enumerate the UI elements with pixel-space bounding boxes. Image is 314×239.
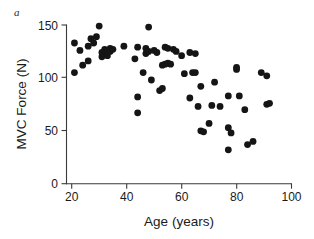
data-point [225,146,232,153]
data-point [90,40,97,47]
data-point [79,62,86,69]
data-point [131,55,138,62]
data-point [192,50,199,57]
data-point [250,138,257,145]
data-point [195,103,202,110]
data-point [225,92,232,99]
data-point [197,83,204,90]
y-axis-title: MVC Force (N) [14,59,29,150]
y-tick-label-0: 0 [51,177,58,191]
data-point [148,77,155,84]
data-point [145,24,152,31]
x-axis-ticks [72,184,292,189]
data-point [211,79,218,86]
data-point [110,46,117,53]
data-point [266,100,273,107]
y-tick-label-50: 50 [45,124,59,138]
data-point [134,44,141,51]
y-tick-label-150: 150 [38,19,58,33]
data-points-group [71,23,273,154]
x-tick-label-80: 80 [230,190,244,204]
data-point [192,69,199,76]
data-point [159,85,166,92]
data-point [236,92,243,99]
x-tick-label-40: 40 [120,190,134,204]
data-point [153,49,160,56]
data-point [200,128,207,135]
plot-canvas: 150 100 50 0 20 40 60 80 100 Age (years)… [0,0,314,239]
data-point [77,47,84,54]
data-point [233,64,240,71]
data-point [71,69,78,76]
x-tick-label-60: 60 [175,190,189,204]
y-axis-ticks [62,25,67,184]
data-point [206,120,213,127]
data-point [241,106,248,113]
data-point [121,43,128,50]
data-point [178,52,185,59]
data-point [71,40,78,47]
data-point [96,23,103,30]
data-point [208,102,215,109]
x-tick-label-100: 100 [281,190,301,204]
data-point [263,72,270,79]
data-point [140,69,147,76]
y-tick-label-100: 100 [38,71,58,85]
data-point [173,48,180,55]
data-point [181,70,188,77]
x-tick-label-20: 20 [65,190,79,204]
data-point [217,103,224,110]
data-point [228,130,235,137]
data-point [167,61,174,68]
data-point [85,58,92,65]
data-point [134,94,141,101]
data-point [134,109,141,116]
data-point [93,33,100,40]
scatter-plot-figure: a 150 100 50 0 20 40 60 80 100 [0,0,314,239]
data-point [186,95,193,102]
x-axis-title: Age (years) [144,214,214,229]
